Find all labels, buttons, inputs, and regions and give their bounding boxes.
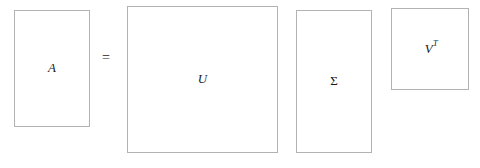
- matrix-label-u: U: [198, 72, 207, 85]
- matrix-box-u: U: [127, 6, 278, 153]
- matrix-label-a: A: [48, 61, 56, 74]
- matrix-label-v-base: V: [425, 41, 433, 56]
- equals-sign: =: [99, 51, 113, 65]
- matrix-box-v-transpose: VT: [391, 8, 469, 90]
- matrix-label-v-transpose: VT: [425, 42, 438, 55]
- svd-diagram-canvas: A = U Σ VT: [0, 0, 480, 168]
- matrix-label-sigma: Σ: [330, 74, 338, 87]
- matrix-label-transpose-exponent: T: [433, 38, 438, 48]
- matrix-box-sigma: Σ: [296, 10, 372, 153]
- matrix-box-a: A: [14, 10, 90, 127]
